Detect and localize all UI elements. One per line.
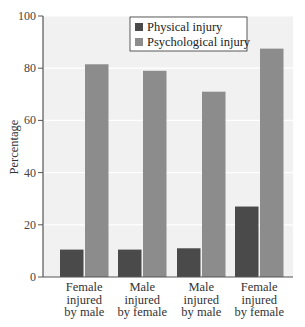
bar-physical [235,207,259,277]
y-tick-label: 100 [18,9,36,23]
legend-swatch-psychological [135,38,143,46]
y-tick-label: 40 [24,166,36,180]
legend-label-psychological: Psychological injury [147,35,251,49]
y-tick-label: 20 [24,218,36,232]
legend-swatch-physical [135,23,143,31]
legend: Physical injury Psychological injury [130,17,251,51]
y-tick-label: 0 [30,270,36,284]
bar-psychological [85,64,109,277]
bar-physical [177,248,201,277]
x-category-label: by female [234,305,284,319]
x-category-label: by male [64,305,104,319]
y-tick-label: 80 [24,61,36,75]
x-category-label: by male [181,305,221,319]
bar-psychological [143,71,167,277]
bar-chart: 020406080100 Percentage Femaleinjuredby … [0,0,305,327]
bar-physical [60,250,84,277]
y-tick-label: 60 [24,113,36,127]
bar-psychological [260,49,284,277]
bar-psychological [202,92,226,277]
y-axis-title: Percentage [7,119,21,174]
y-axis-ticks: 020406080100 [18,9,43,284]
bar-physical [118,250,142,277]
legend-label-physical: Physical injury [147,20,223,34]
x-axis-category-labels: Femaleinjuredby maleMaleinjuredby female… [64,280,284,319]
x-category-label: by female [117,305,167,319]
